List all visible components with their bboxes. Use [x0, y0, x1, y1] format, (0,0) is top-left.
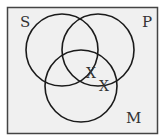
venn-diagram: S P M X X	[0, 0, 165, 140]
x-mark-upper: X	[86, 65, 96, 81]
x-mark-lower: X	[99, 78, 109, 94]
set-p-label: P	[142, 13, 152, 31]
set-m-label: M	[126, 109, 141, 127]
set-s-label: S	[20, 13, 30, 31]
